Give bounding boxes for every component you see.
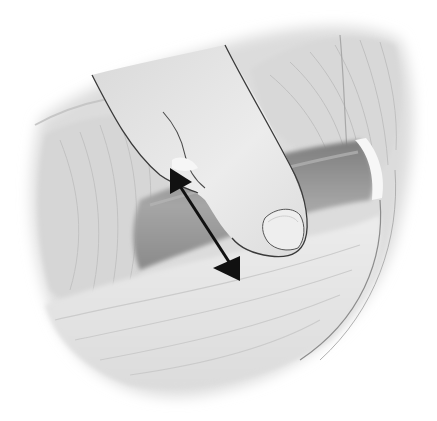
illustration-svg <box>0 0 437 421</box>
anatomy-illustration: Grayscale anatomical illustration of a f… <box>0 0 437 421</box>
